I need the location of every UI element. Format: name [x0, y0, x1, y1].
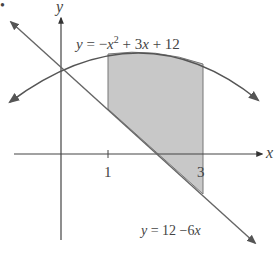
graph: • y x 1 3 y = −x2 + 3x + 12 y = 12 −6x [0, 0, 279, 263]
line-equation: y = 12 −6x [139, 223, 202, 238]
bullet-marker: • [0, 0, 5, 13]
y-axis-label: y [54, 0, 64, 16]
x-tick-label-3: 3 [197, 164, 205, 180]
x-axis-label: x [265, 144, 273, 161]
x-tick-label-1: 1 [104, 164, 112, 180]
parabola-equation: y = −x2 + 3x + 12 [74, 34, 180, 52]
